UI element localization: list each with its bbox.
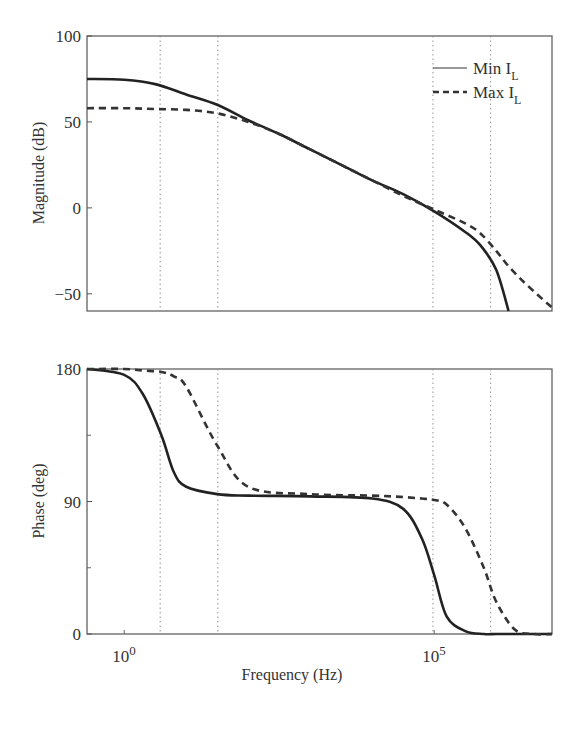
y-tick-label: 0 <box>73 199 82 218</box>
phase-y-axis-label: Phase (deg) <box>30 463 48 538</box>
x-tick-label: 100 <box>112 643 136 666</box>
phase-plot: 180900 100105 Phase (deg) Frequency (Hz) <box>30 360 552 684</box>
bode-plot-figure: 100500−50 Magnitude (dB) Min IL Max IL 1… <box>0 0 584 730</box>
phase-axes-frame <box>87 369 552 634</box>
x-tick-label: 105 <box>422 643 446 666</box>
y-tick-label: 180 <box>56 360 82 379</box>
phase-x-ticks: 100105 <box>112 630 446 666</box>
magnitude-y-ticks: 100500−50 <box>54 27 92 304</box>
y-tick-label: 50 <box>64 113 81 132</box>
y-tick-label: 100 <box>56 27 82 46</box>
magnitude-y-axis-label: Magnitude (dB) <box>30 122 48 225</box>
y-tick-label: −50 <box>54 285 81 304</box>
x-axis-label: Frequency (Hz) <box>242 666 343 684</box>
y-tick-label: 0 <box>73 625 82 644</box>
y-tick-label: 90 <box>64 493 81 512</box>
magnitude-plot: 100500−50 Magnitude (dB) Min IL Max IL <box>30 27 552 311</box>
